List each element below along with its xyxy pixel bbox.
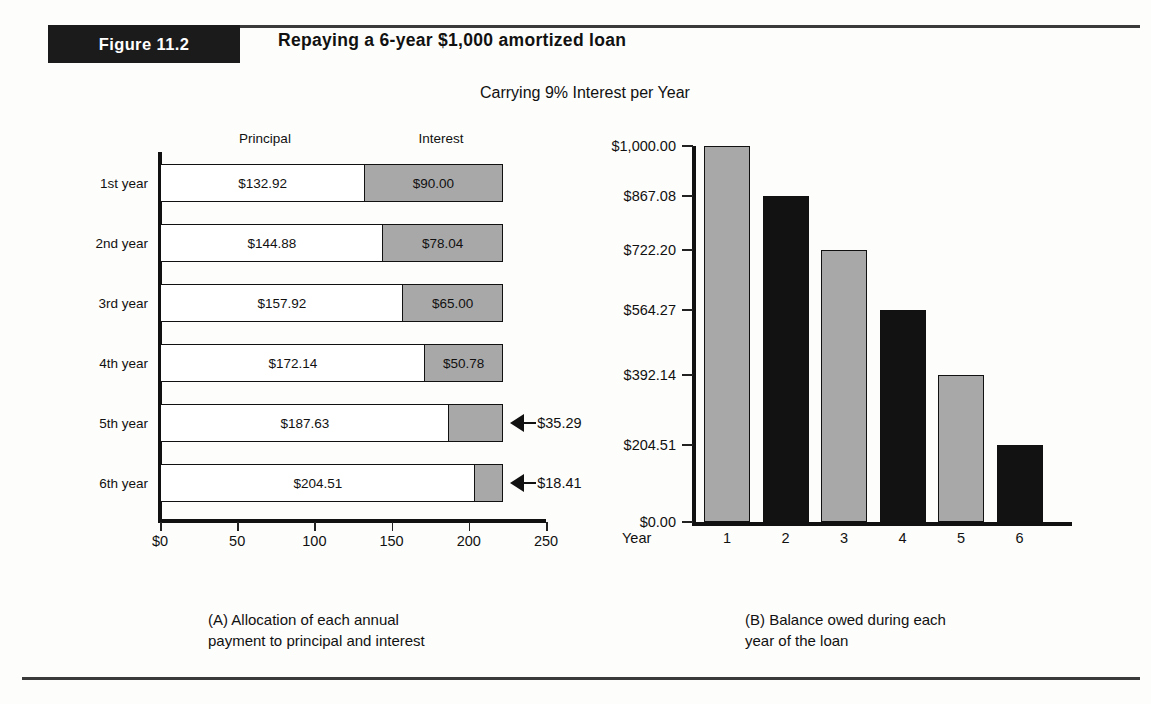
panel-b-x-tick-label: 2 bbox=[781, 530, 789, 546]
panel-a-interest-segment: $90.00 bbox=[364, 164, 503, 202]
panel-a-x-tick bbox=[469, 522, 471, 531]
left-arrow-icon bbox=[510, 474, 524, 492]
panel-a-x-tick bbox=[392, 522, 394, 531]
panel-a-stacked-bar: $172.14$50.78 bbox=[160, 344, 504, 382]
panel-a-stacked-bar: $132.92$90.00 bbox=[160, 164, 504, 202]
panel-a-stacked-bar: $204.51 bbox=[160, 464, 504, 502]
panel-a-x-tick-label: 200 bbox=[457, 533, 481, 549]
panel-b-x-tick-label: 3 bbox=[840, 530, 848, 546]
panel-b-y-tick-label: $392.14 bbox=[566, 367, 676, 383]
panel-a-callout-label: $18.41 bbox=[537, 475, 581, 491]
panel-a-x-tick-label: $0 bbox=[152, 533, 168, 549]
panel-a-principal-segment: $132.92 bbox=[160, 164, 365, 202]
panel-b-x-tick-label: 5 bbox=[957, 530, 965, 546]
panel-a-x-axis-line bbox=[158, 519, 546, 523]
panel-a-caption: (A) Allocation of each annual payment to… bbox=[208, 609, 425, 651]
panel-a-row-label: 6th year bbox=[58, 476, 148, 491]
panel-b-y-tick bbox=[682, 374, 693, 376]
panel-a-x-tick-label: 50 bbox=[229, 533, 245, 549]
panel-b-x-tick-label: 6 bbox=[1015, 530, 1023, 546]
panel-b-bar-chart: $0.00$204.51$392.14$564.27$722.20$867.08… bbox=[600, 0, 1151, 704]
panel-b-y-tick-label: $867.08 bbox=[566, 188, 676, 204]
panel-b-y-tick-label: $722.20 bbox=[566, 242, 676, 258]
panel-a-callout: $18.41 bbox=[510, 473, 581, 493]
panel-a-stacked-bar-chart: Principal Interest 1st year$132.92$90.00… bbox=[0, 0, 600, 704]
bottom-divider bbox=[22, 677, 1140, 680]
panel-b-y-tick-label: $564.27 bbox=[566, 302, 676, 318]
panel-a-x-tick bbox=[546, 522, 548, 531]
panel-b-x-tick-label: 1 bbox=[723, 530, 731, 546]
panel-a-stacked-bar: $144.88$78.04 bbox=[160, 224, 504, 262]
panel-a-interest-segment: $78.04 bbox=[382, 224, 502, 262]
panel-b-bar bbox=[880, 310, 926, 522]
panel-a-stacked-bar: $157.92$65.00 bbox=[160, 284, 504, 322]
panel-a-interest-segment bbox=[474, 464, 502, 502]
panel-b-y-tick bbox=[682, 521, 693, 523]
panel-b-x-tick-label: 4 bbox=[898, 530, 906, 546]
panel-b-y-tick-label: $1,000.00 bbox=[566, 138, 676, 154]
panel-a-callout-label: $35.29 bbox=[537, 415, 581, 431]
panel-b-bar bbox=[997, 445, 1043, 522]
panel-b-x-axis-title: Year bbox=[622, 530, 651, 546]
panel-b-bar bbox=[704, 146, 750, 522]
panel-b-y-tick bbox=[682, 249, 693, 251]
panel-a-interest-segment: $65.00 bbox=[402, 284, 502, 322]
panel-b-bar bbox=[938, 375, 984, 522]
panel-a-x-tick bbox=[160, 522, 162, 531]
figure-page: Figure 11.2 Repaying a 6-year $1,000 amo… bbox=[0, 0, 1151, 704]
panel-b-x-axis-line bbox=[692, 522, 1072, 526]
panel-b-y-tick bbox=[682, 309, 693, 311]
panel-a-interest-segment bbox=[448, 404, 502, 442]
arrow-tail bbox=[524, 422, 536, 424]
panel-b-y-tick-label: $0.00 bbox=[566, 514, 676, 530]
panel-a-callout: $35.29 bbox=[510, 413, 581, 433]
panel-a-row-label: 3rd year bbox=[58, 296, 148, 311]
panel-a-x-tick-label: 150 bbox=[379, 533, 403, 549]
panel-a-row-label: 1st year bbox=[58, 176, 148, 191]
panel-a-principal-segment: $157.92 bbox=[160, 284, 404, 322]
panel-b-y-tick bbox=[682, 195, 693, 197]
arrow-tail bbox=[524, 482, 536, 484]
left-arrow-icon bbox=[510, 414, 524, 432]
panel-b-bar bbox=[821, 250, 867, 522]
panel-a-stacked-bar: $187.63 bbox=[160, 404, 504, 442]
panel-b-caption: (B) Balance owed during each year of the… bbox=[745, 609, 946, 651]
panel-a-principal-segment: $144.88 bbox=[160, 224, 384, 262]
panel-a-x-tick bbox=[314, 522, 316, 531]
column-header-principal: Principal bbox=[239, 131, 291, 146]
panel-b-y-tick bbox=[682, 444, 693, 446]
panel-a-x-tick-label: 100 bbox=[302, 533, 326, 549]
panel-a-row-label: 5th year bbox=[58, 416, 148, 431]
panel-a-row-label: 2nd year bbox=[58, 236, 148, 251]
panel-b-y-axis-line bbox=[692, 146, 696, 523]
panel-b-y-tick-label: $204.51 bbox=[566, 437, 676, 453]
panel-a-x-tick-label: 250 bbox=[534, 533, 558, 549]
panel-a-principal-segment: $187.63 bbox=[160, 404, 450, 442]
panel-b-bar bbox=[763, 196, 809, 522]
panel-a-x-tick bbox=[237, 522, 239, 531]
panel-b-y-tick bbox=[682, 145, 693, 147]
panel-a-principal-segment: $172.14 bbox=[160, 344, 426, 382]
panel-a-principal-segment: $204.51 bbox=[160, 464, 476, 502]
panel-a-interest-segment: $50.78 bbox=[424, 344, 502, 382]
panel-a-row-label: 4th year bbox=[58, 356, 148, 371]
column-header-interest: Interest bbox=[418, 131, 463, 146]
